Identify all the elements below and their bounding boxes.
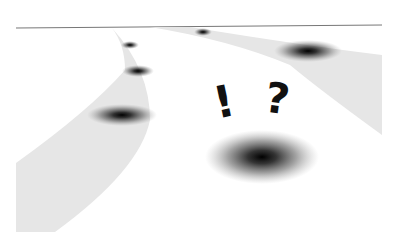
shadow-spot <box>194 28 212 36</box>
shadow-spot <box>122 65 154 77</box>
large-shadow-spot <box>205 130 319 184</box>
road-scene <box>0 0 393 243</box>
left-road <box>16 28 150 232</box>
horizon-line <box>16 25 382 28</box>
shadow-spot <box>87 104 157 126</box>
shadow-spot <box>121 41 139 49</box>
shadow-spot <box>274 40 342 62</box>
